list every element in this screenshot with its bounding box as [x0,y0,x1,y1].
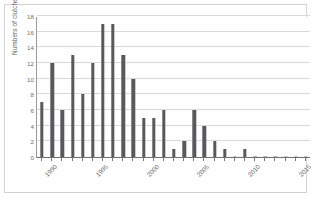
bar-slot [57,17,67,157]
bar-slot [281,17,291,157]
bar [294,156,297,157]
y-tick-label: 12 [12,61,34,67]
chart-figure: 024681012141618 Numbers of clutches 1990… [0,0,311,197]
y-tick-label: 2 [12,139,34,145]
bar [101,24,104,157]
x-tick-mark [264,158,265,161]
x-tick-mark [295,158,296,161]
bar [111,24,114,157]
x-tick-mark [203,158,204,161]
x-tick-mark [122,158,123,161]
x-tick-mark [234,158,235,161]
gridline [37,15,310,16]
x-tick-mark [244,158,245,161]
bar [253,156,256,157]
bar [182,141,185,157]
bar [284,156,287,157]
x-tick-label: 2015 [297,163,311,178]
bar-slot [88,17,98,157]
bar [243,149,246,157]
y-tick-label: 8 [12,92,34,98]
x-axis-ticks: 199019952000200520102015 [36,158,310,197]
bar-slot [179,17,189,157]
bar-slot [250,17,260,157]
x-tick-mark [173,158,174,161]
bar-slot [240,17,250,157]
bar-slot [189,17,199,157]
bar [71,55,74,157]
x-tick-mark [305,158,306,161]
x-tick-label: 1990 [43,163,58,178]
bar [264,156,267,157]
bar [213,141,216,157]
x-tick-mark [82,158,83,161]
x-tick-label: 2005 [195,163,210,178]
x-tick-mark [143,158,144,161]
x-tick-mark [102,158,103,161]
bar-slot [291,17,301,157]
x-tick-mark [285,158,286,161]
bar-slot [220,17,230,157]
x-tick-mark [224,158,225,161]
x-tick-mark [214,158,215,161]
y-tick-label: 0 [12,155,34,161]
bar-slot [108,17,118,157]
bar-slot [199,17,209,157]
x-tick-mark [163,158,164,161]
bar-slot [149,17,159,157]
y-axis-title: Numbers of clutches [11,0,18,55]
bar [274,156,277,157]
x-tick-mark [41,158,42,161]
bar [203,126,206,157]
bar-slot [47,17,57,157]
bar-slot [37,17,47,157]
bar-slot [260,17,270,157]
y-tick-label: 10 [12,77,34,83]
bar [142,118,145,157]
bar-slot [78,17,88,157]
bar [61,110,64,157]
bar [132,79,135,157]
bar [172,149,175,157]
bar [51,63,54,157]
x-tick-mark [92,158,93,161]
bar-slot [169,17,179,157]
x-tick-mark [132,158,133,161]
x-tick-mark [72,158,73,161]
x-tick-mark [193,158,194,161]
y-tick-label: 4 [12,124,34,130]
x-tick-mark [183,158,184,161]
bar-series [37,17,310,157]
bar-slot [67,17,77,157]
bar [193,110,196,157]
bar [233,156,236,157]
bar [91,63,94,157]
bar-slot [301,17,311,157]
bar [122,55,125,157]
x-tick-label: 2010 [246,163,261,178]
x-tick-mark [61,158,62,161]
bar-slot [98,17,108,157]
bar [223,149,226,157]
bar-slot [270,17,280,157]
plot-area [36,17,310,158]
bar-slot [230,17,240,157]
bar [40,102,43,157]
bar-slot [128,17,138,157]
x-tick-mark [51,158,52,161]
x-tick-mark [112,158,113,161]
bar [304,156,307,157]
bar-slot [210,17,220,157]
y-tick-label: 6 [12,108,34,114]
x-tick-mark [153,158,154,161]
bar-slot [118,17,128,157]
bar-slot [159,17,169,157]
bar [152,118,155,157]
x-tick-label: 2000 [145,163,160,178]
figure-border: 024681012141618 Numbers of clutches 1990… [4,4,307,193]
bar [162,110,165,157]
x-tick-label: 1995 [94,163,109,178]
bar [81,94,84,157]
x-tick-mark [254,158,255,161]
x-tick-mark [274,158,275,161]
